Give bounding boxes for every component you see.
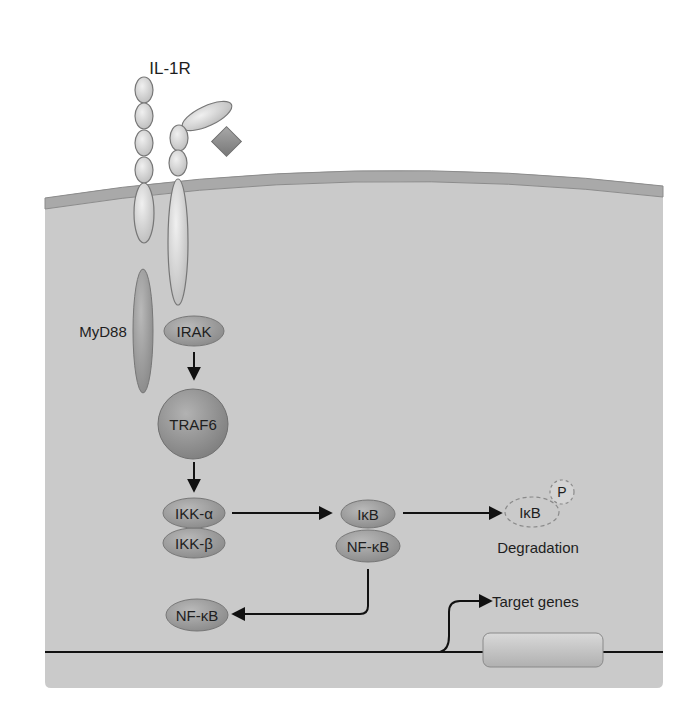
nfkb-free-label: NF-κB [176,607,219,624]
myd88-label: MyD88 [79,323,127,340]
ikb-degraded-label: IκB [519,504,541,521]
il1r-pathway-diagram: IL-1R MyD88 IRAK TRAF6 IKK-α IKK-β IκB N… [0,0,692,710]
traf6-label: TRAF6 [169,416,217,433]
myd88-protein [133,269,153,393]
nfkb-complex-label: NF-κB [347,538,390,555]
cytoplasm [45,171,663,688]
ikk-beta-label: IKK-β [175,535,213,552]
receptor-chain-1 [134,77,154,243]
degradation-label: Degradation [497,539,579,556]
irak-label: IRAK [176,323,211,340]
gene-box [483,633,603,667]
receptor-label: IL-1R [149,59,191,78]
target-genes-label: Target genes [492,593,579,610]
phosphate-label: P [557,484,566,500]
ikb-label: IκB [357,506,379,523]
ikk-alpha-label: IKK-α [175,505,213,522]
ligand-diamond [212,127,242,157]
